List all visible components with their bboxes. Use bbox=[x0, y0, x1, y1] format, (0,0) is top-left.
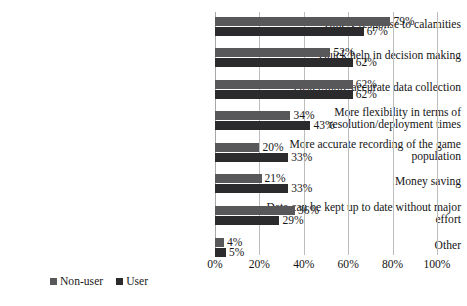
bar-non-user-row-1 bbox=[215, 17, 390, 26]
gridline-80pct bbox=[393, 12, 394, 255]
value-label-user-row-7: 29% bbox=[282, 215, 303, 226]
bar-user-row-4 bbox=[215, 121, 310, 130]
bar-user-row-7 bbox=[215, 216, 279, 225]
value-label-user-row-8: 5% bbox=[229, 247, 244, 258]
bar-user-row-8 bbox=[215, 248, 226, 257]
legend-item-non-user[interactable]: Non-user bbox=[50, 275, 103, 288]
value-label-user-row-1: 67% bbox=[367, 26, 388, 37]
bar-non-user-row-5 bbox=[215, 143, 259, 152]
x-tick-100pct: 100% bbox=[414, 258, 460, 271]
legend-swatch-icon-2 bbox=[116, 278, 123, 285]
legend-item-user[interactable]: User bbox=[116, 275, 148, 288]
bar-non-user-row-4 bbox=[215, 111, 290, 120]
bar-non-user-row-6 bbox=[215, 174, 262, 183]
legend-label-1: Non-user bbox=[60, 275, 103, 288]
bar-chart: Timely response to calamitiesQuick help … bbox=[0, 0, 467, 306]
value-label-non-user-row-6: 21% bbox=[265, 173, 286, 184]
legend-label-2: User bbox=[126, 275, 148, 288]
bar-user-row-5 bbox=[215, 153, 288, 162]
x-tick-0pct: 0% bbox=[192, 258, 238, 271]
bar-non-user-row-2 bbox=[215, 48, 330, 57]
x-tick-60pct: 60% bbox=[325, 258, 371, 271]
value-label-user-row-3: 62% bbox=[356, 89, 377, 100]
plot-area: 79%67%52%62%62%62%34%43%20%33%21%33%36%2… bbox=[215, 12, 437, 255]
x-tick-20pct: 20% bbox=[236, 258, 282, 271]
bar-non-user-row-8 bbox=[215, 238, 224, 247]
value-label-user-row-5: 33% bbox=[291, 152, 312, 163]
x-tick-80pct: 80% bbox=[370, 258, 416, 271]
bar-user-row-3 bbox=[215, 90, 353, 99]
bar-user-row-6 bbox=[215, 184, 288, 193]
value-label-non-user-row-4: 34% bbox=[293, 110, 314, 121]
legend-swatch-icon-1 bbox=[50, 278, 57, 285]
value-label-non-user-row-1: 79% bbox=[393, 16, 414, 27]
bar-user-row-2 bbox=[215, 58, 353, 67]
value-label-user-row-2: 62% bbox=[356, 57, 377, 68]
bar-user-row-1 bbox=[215, 27, 364, 36]
bar-non-user-row-3 bbox=[215, 80, 353, 89]
gridline-100pct bbox=[437, 12, 438, 255]
value-label-non-user-row-2: 52% bbox=[333, 47, 354, 58]
value-label-user-row-6: 33% bbox=[291, 183, 312, 194]
chart-legend: Non-userUser bbox=[50, 275, 148, 288]
value-label-user-row-4: 43% bbox=[313, 120, 334, 131]
x-tick-40pct: 40% bbox=[281, 258, 327, 271]
value-label-non-user-row-5: 20% bbox=[262, 142, 283, 153]
